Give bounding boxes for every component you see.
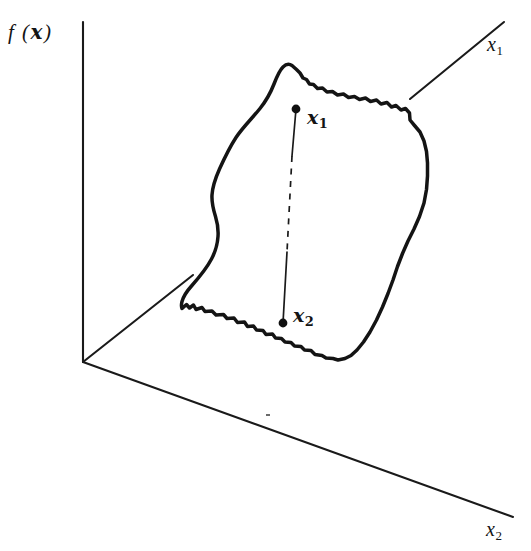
point-label-x1: x1 — [307, 108, 327, 127]
point-label-x2-base: x — [293, 304, 304, 326]
x1-axis-line-left — [83, 275, 193, 362]
point-label-x2: x2 — [293, 306, 313, 325]
point-label-x2-subscript: 2 — [305, 314, 314, 329]
point-label-x1-base: x — [307, 106, 318, 128]
convex-set-figure — [0, 0, 531, 551]
vertical-axis-label-prefix: f ( — [8, 20, 31, 44]
x2-axis-label: x2 — [486, 519, 501, 539]
point-label-x1-subscript: 1 — [319, 116, 328, 131]
axis-tick-speck — [266, 414, 270, 416]
vertical-axis-label: f (x) — [8, 22, 53, 43]
point-marker-x2 — [279, 319, 288, 328]
x1-axis-label-subscript: 1 — [496, 43, 503, 58]
vertical-axis-label-suffix: ) — [44, 20, 53, 44]
x2-axis-label-subscript: 2 — [495, 528, 502, 543]
x1-axis-label: x1 — [487, 34, 502, 54]
vertical-axis-label-vector: x — [31, 20, 44, 44]
figure-root: f (x) x1 x2 x1 x2 — [0, 0, 531, 551]
x1-axis-label-base: x — [487, 33, 496, 55]
point-marker-x1 — [292, 105, 301, 114]
x2-axis-line — [83, 362, 513, 517]
x2-axis-label-base: x — [486, 518, 495, 540]
